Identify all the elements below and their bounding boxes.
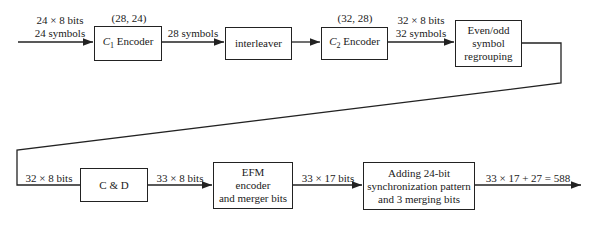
regroup-line2: symbol	[472, 37, 504, 50]
cd-label: C & D	[99, 179, 128, 192]
cd-out-label: 33 × 8 bits	[152, 172, 208, 184]
c1-params-label: (28, 24)	[104, 12, 154, 24]
interleaver-block: interleaver	[225, 27, 292, 60]
regroup-line1: Even/odd	[467, 24, 509, 37]
efm-block: EFM encoder and merger bits	[213, 162, 293, 209]
output-label: 33 × 17 + 27 = 588	[478, 172, 578, 184]
regroup-block: Even/odd symbol regrouping	[455, 20, 522, 67]
sync-line1: Adding 24-bit	[388, 167, 450, 180]
efm-line2: encoder	[236, 179, 271, 192]
sync-line3: and 3 merging bits	[378, 193, 460, 206]
c1-encoder-label: Encoder	[117, 35, 154, 47]
c2-out-symbols-label: 32 symbols	[390, 27, 452, 39]
c2-out-bits-label: 32 × 8 bits	[390, 14, 452, 26]
sync-line2: synchronization pattern	[367, 180, 471, 193]
c2-encoder-label: Encoder	[343, 35, 380, 47]
cd-block: C & D	[80, 168, 148, 202]
input-symbols-label: 24 symbols	[28, 27, 92, 39]
interleaver-label: interleaver	[235, 37, 282, 50]
c2-params-label: (32, 28)	[330, 12, 380, 24]
efm-out-label: 33 × 17 bits	[296, 172, 360, 184]
sync-block: Adding 24-bit synchronization pattern an…	[363, 162, 475, 210]
cd-input-label: 32 × 8 bits	[20, 172, 78, 184]
efm-line1: EFM	[242, 166, 265, 179]
input-bits-label: 24 × 8 bits	[28, 14, 92, 26]
c1-subscript: 1	[110, 41, 114, 50]
c2-encoder-block: C2 Encoder	[321, 27, 388, 60]
regroup-line3: regrouping	[464, 50, 512, 63]
c2-subscript: 2	[336, 41, 340, 50]
efm-line3: and merger bits	[219, 192, 287, 205]
c1-out-label: 28 symbols	[164, 27, 222, 39]
c1-symbol: C	[103, 35, 110, 47]
c1-encoder-block: C1 Encoder	[94, 26, 162, 61]
